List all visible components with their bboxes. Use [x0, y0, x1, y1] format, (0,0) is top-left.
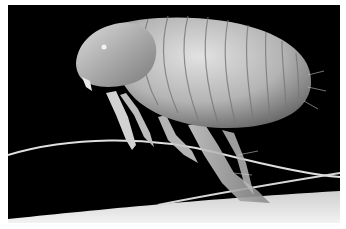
- hair-fiber: [8, 140, 340, 177]
- hair-surface: [8, 191, 340, 223]
- flea-eye: [102, 45, 107, 50]
- flea-illustration: [8, 5, 340, 223]
- micrograph-image: [8, 5, 340, 223]
